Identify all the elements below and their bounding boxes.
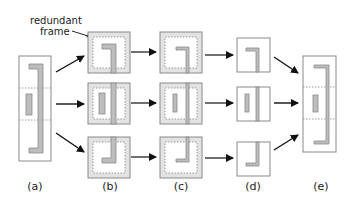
arrow-d-to-e-top: [274, 57, 298, 73]
stage-a-original: [19, 56, 51, 161]
stage-b-mid: [88, 83, 130, 124]
label-b: (b): [102, 180, 118, 193]
label-c: (c): [174, 180, 189, 193]
stage-d-top: [237, 38, 270, 72]
annotation-pointer: [72, 31, 88, 36]
stage-b-top: [88, 32, 130, 73]
diagram-canvas: redundant frame: [0, 0, 353, 202]
stage-e-reassembled: [303, 56, 336, 152]
redundant-frame-annotation: redundant frame: [30, 15, 90, 38]
arrow-a-to-b-top: [56, 56, 84, 72]
annotation-line2: frame: [40, 26, 70, 37]
stage-b-bottom: [88, 137, 130, 178]
label-d: (d): [245, 180, 261, 193]
stage-c-mid: [160, 83, 202, 124]
annotation-line1: redundant: [30, 15, 82, 26]
label-e: (e): [313, 180, 328, 193]
arrow-a-to-b-bottom: [56, 133, 84, 152]
label-a: (a): [27, 180, 42, 193]
arrow-d-to-e-bottom: [274, 135, 298, 150]
stage-c-bottom: [160, 137, 202, 178]
stage-d-mid: [237, 87, 270, 121]
stage-d-bottom: [237, 142, 270, 176]
stage-c-top: [160, 32, 202, 73]
